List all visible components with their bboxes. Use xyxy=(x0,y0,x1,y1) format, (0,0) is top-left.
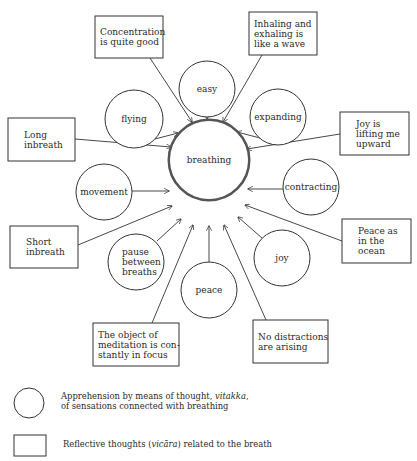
circle-label: movement xyxy=(80,187,128,197)
circle-node-peace: peace xyxy=(181,262,237,318)
circle-label: pause xyxy=(122,247,149,257)
box-label: Peace as xyxy=(358,226,398,236)
box-node-object: The object ofmeditation is con-stantly i… xyxy=(93,323,180,366)
legend: Apprehension by means of thought, vitakk… xyxy=(14,388,273,456)
breathing-diagram: breathing easyflyingexpandingmovementcon… xyxy=(0,0,417,461)
arrow-joy-to-breathing xyxy=(238,217,262,238)
box-label: No distractions xyxy=(258,332,328,342)
legend-circle-text-line1: Apprehension by means of thought, vitakk… xyxy=(60,391,249,401)
circle-label: breaths xyxy=(122,267,157,277)
circle-node-movement: movement xyxy=(76,164,132,220)
box-node-peace-ocean: Peace asin theocean xyxy=(342,219,411,263)
circle-label: flying xyxy=(121,114,147,124)
circle-label: expanding xyxy=(254,112,302,122)
box-label: exhaling is xyxy=(254,29,304,39)
circle-label: easy xyxy=(197,84,218,94)
circle-node-pause: pausebetweenbreaths xyxy=(108,234,164,290)
center-node-breathing: breathing xyxy=(169,120,249,200)
circle-node-easy: easy xyxy=(179,61,235,117)
box-label: inbreath xyxy=(26,247,65,257)
box-label: lifting me xyxy=(356,129,400,139)
legend-circle-text-line2: of sensations connected with breathing xyxy=(61,401,229,411)
box-label: Inhaling and xyxy=(254,19,312,29)
box-label: like a wave xyxy=(254,39,305,49)
box-node-long: Longinbreath xyxy=(8,118,75,161)
circle-label: joy xyxy=(274,253,289,263)
box-label: Long xyxy=(24,130,47,140)
box-label: are arising xyxy=(258,342,308,352)
center-label: breathing xyxy=(187,155,232,165)
circle-label: between xyxy=(122,257,161,267)
box-label: Short xyxy=(26,237,52,247)
box-label: inbreath xyxy=(24,140,63,150)
box-label: is quite good xyxy=(100,37,159,47)
legend-circle-symbol xyxy=(14,388,44,418)
box-label: Joy is xyxy=(355,119,381,129)
box-node-short: Shortinbreath xyxy=(10,226,78,268)
box-label: Concentration xyxy=(100,27,165,37)
box-label: stantly in focus xyxy=(98,350,168,360)
circle-node-contracting: contracting xyxy=(283,159,339,215)
box-node-distractions: No distractionsare arising xyxy=(253,320,328,363)
legend-box-symbol xyxy=(14,435,46,456)
circle-node-flying: flying xyxy=(105,90,163,148)
box-label: upward xyxy=(356,139,391,149)
box-node-wave: Inhaling andexhaling islike a wave xyxy=(249,12,317,55)
box-label: meditation is con- xyxy=(98,340,180,350)
circle-node-expanding: expanding xyxy=(250,89,306,145)
circle-node-joy: joy xyxy=(254,230,310,286)
box-node-concentration: Concentrationis quite good xyxy=(95,16,165,58)
circle-label: contracting xyxy=(285,182,338,192)
box-label: The object of xyxy=(98,330,158,340)
box-label: ocean xyxy=(358,246,385,256)
box-node-joy-lifting: Joy islifting meupward xyxy=(340,112,409,155)
legend-box-text: Reflective thoughts (vicāra) related to … xyxy=(63,439,273,449)
circle-label: peace xyxy=(196,285,223,295)
arrow-pause-to-breathing xyxy=(157,219,181,241)
box-label: in the xyxy=(358,236,384,246)
